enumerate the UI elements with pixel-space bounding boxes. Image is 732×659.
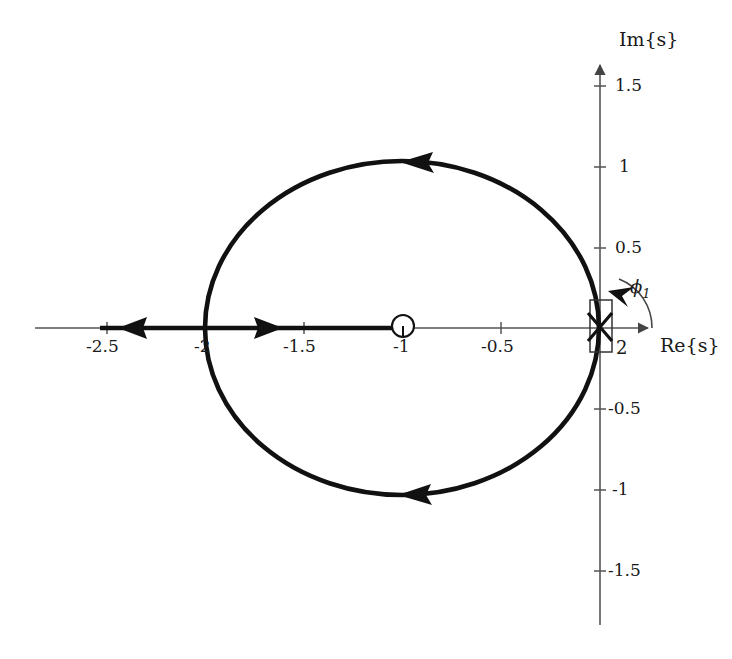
tick-label-im--0.5: -0.5 <box>608 398 641 418</box>
root-locus-figure: -2.5 -2 -1.5 -1 -0.5 1.5 1 0.5 -0.5 -1 -… <box>0 0 732 659</box>
tick-label-re--0.5: -0.5 <box>481 336 514 356</box>
tick-label-im--1.5: -1.5 <box>608 560 641 580</box>
tick-label-re--2: -2 <box>194 336 211 356</box>
real-axis-label: Re{s} <box>660 334 719 356</box>
tick-label-im-1.5: 1.5 <box>615 75 642 95</box>
tick-label-im--1: -1 <box>612 479 629 499</box>
tick-label-im-1: 1 <box>619 156 630 176</box>
tick-label-re--2.5: -2.5 <box>86 336 119 356</box>
phi-subscript: 1 <box>642 286 650 301</box>
locus-arrow-left <box>118 317 147 339</box>
tick-label-re--1: -1 <box>393 336 410 356</box>
phi-symbol: ϕ <box>630 276 642 297</box>
axis-lines <box>35 65 648 625</box>
pole-multiplicity-label: 2 <box>616 337 627 358</box>
imag-axis-label: Im{s} <box>619 28 678 50</box>
tick-label-re--1.5: -1.5 <box>283 336 316 356</box>
real-axis-label-text: Re{s} <box>660 334 719 356</box>
imag-axis-label-text: Im{s} <box>619 28 678 50</box>
locus-arrow-right <box>254 317 283 339</box>
tick-label-im-0.5: 0.5 <box>615 237 642 257</box>
departure-angle-label: ϕ1 <box>630 276 651 301</box>
